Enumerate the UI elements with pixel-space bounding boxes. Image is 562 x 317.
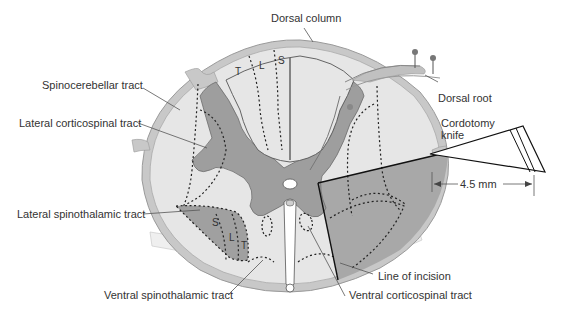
label-dorsal-column: Dorsal column bbox=[271, 12, 341, 25]
dorsal-column-letter-t: T bbox=[235, 66, 241, 77]
central-canal bbox=[283, 179, 297, 189]
label-lateral-corticospinal-tract: Lateral corticospinal tract bbox=[19, 117, 141, 130]
label-dorsal-root: Dorsal root bbox=[438, 92, 492, 105]
dorsal-column-letter-s: S bbox=[278, 55, 285, 66]
ventral-fissure bbox=[284, 199, 296, 287]
label-ventral-corticospinal-tract: Ventral corticospinal tract bbox=[349, 289, 472, 302]
spinothalamic-letter-l: L bbox=[229, 232, 235, 243]
label-measurement: 4.5 mm bbox=[460, 178, 497, 191]
label-ventral-spinothalamic-tract: Ventral spinothalamic tract bbox=[104, 289, 233, 302]
label-cordotomy-knife-2: knife bbox=[441, 129, 464, 142]
spinothalamic-letter-t: T bbox=[241, 240, 247, 251]
label-line-of-incision: Line of incision bbox=[378, 270, 451, 283]
dorsal-column-letter-l: L bbox=[259, 60, 265, 71]
label-lateral-spinothalamic-tract: Lateral spinothalamic tract bbox=[17, 208, 145, 221]
label-spinocerebellar-tract: Spinocerebellar tract bbox=[42, 79, 143, 92]
spinothalamic-letter-s: S bbox=[212, 217, 219, 228]
spinal-cord-diagram bbox=[0, 0, 562, 317]
